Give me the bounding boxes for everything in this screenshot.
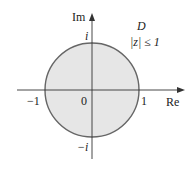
imaginary-axis-arrow-icon [89, 13, 95, 21]
region-condition: |z| ≤ 1 [130, 35, 160, 49]
complex-plane-diagram: Im Re D |z| ≤ 1 i −i −1 0 1 [0, 0, 195, 169]
tick-label-minus-i: −i [77, 140, 88, 154]
diagram-canvas: Im Re D |z| ≤ 1 i −i −1 0 1 [0, 0, 195, 169]
im-axis-label: Im [72, 10, 86, 24]
re-axis-label: Re [166, 95, 179, 109]
tick-label-minus-1: −1 [27, 94, 40, 108]
tick-label-1: 1 [141, 94, 147, 108]
tick-label-i: i [85, 29, 88, 43]
real-axis-arrow-icon [177, 87, 185, 93]
tick-label-origin: 0 [81, 94, 87, 108]
region-name: D [136, 19, 146, 33]
